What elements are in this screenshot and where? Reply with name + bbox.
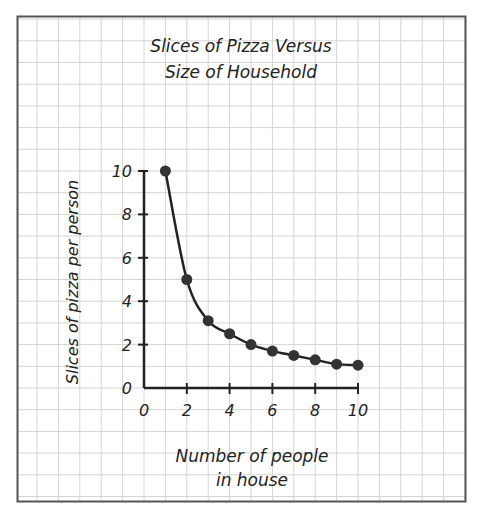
y-axis-label: Slices of pizza per person [63,180,82,384]
x-axis-label-line-2: in house [216,470,288,490]
x-tick-label: 10 [348,401,368,420]
data-point [246,339,257,350]
y-tick-label: 10 [112,162,132,181]
data-point [224,328,235,339]
x-tick-label: 0 [139,401,149,420]
x-tick-label: 2 [182,401,192,420]
x-axis-label-line-1: Number of people [175,446,328,466]
y-tick-label: 0 [122,379,132,398]
data-point [267,346,278,357]
data-point [310,354,321,365]
y-tick-label: 8 [122,205,132,224]
chart: Slices of Pizza Versus Size of Household… [0,0,479,515]
chart-title-line-2: Size of Household [165,62,317,82]
data-point [160,166,171,177]
chart-title-line-1: Slices of Pizza Versus [150,36,331,56]
data-point [331,359,342,370]
data-point [181,274,192,285]
x-tick-label: 4 [225,401,235,420]
x-tick-label: 8 [310,401,320,420]
data-point [288,350,299,361]
data-point [353,360,364,371]
y-tick-label: 4 [122,292,132,311]
y-tick-label: 2 [122,336,132,355]
y-tick-label: 6 [122,249,132,268]
data-point [203,315,214,326]
x-tick-label: 6 [267,401,277,420]
